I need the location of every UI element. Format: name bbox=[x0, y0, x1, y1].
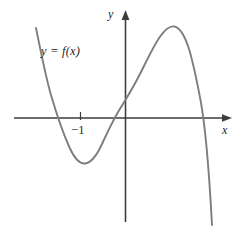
y-axis-label: y bbox=[108, 8, 114, 20]
x-axis-arrow-icon bbox=[222, 114, 232, 122]
graph-canvas bbox=[0, 0, 240, 231]
x-tick-label-neg-one: −1 bbox=[71, 124, 85, 137]
graph-figure: y x y = f(x) −1 bbox=[0, 0, 240, 231]
y-axis-arrow-icon bbox=[122, 10, 130, 20]
x-axis-label: x bbox=[222, 124, 228, 136]
curve-label: y = f(x) bbox=[41, 45, 80, 58]
